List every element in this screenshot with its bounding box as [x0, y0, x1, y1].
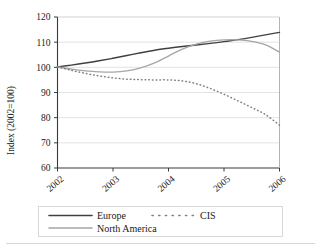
series-line-europe	[58, 32, 280, 66]
chart-legend: EuropeCISNorth America	[39, 207, 283, 237]
x-tick-label: 2002	[45, 174, 66, 194]
legend-label-europe: Europe	[97, 210, 126, 221]
y-tick-label: 110	[37, 38, 51, 48]
chart-figure: 12011010090807060 20022003200420052006 I…	[0, 0, 321, 250]
y-tick-label: 70	[41, 138, 51, 148]
line-chart: 12011010090807060 20022003200420052006 I…	[0, 0, 321, 250]
legend-label-cis: CIS	[200, 210, 216, 221]
y-axis-tick-labels: 12011010090807060	[36, 12, 51, 173]
legend-label-north-america: North America	[97, 223, 157, 234]
y-tick-label: 100	[36, 63, 51, 73]
legend-box	[39, 207, 283, 237]
y-axis-title: Index (2002=100)	[6, 86, 17, 155]
y-tick-label: 90	[41, 88, 51, 98]
x-tick-label: 2005	[211, 174, 232, 194]
data-series-group	[58, 32, 280, 125]
series-line-cis	[58, 67, 280, 125]
y-tick-label: 80	[41, 113, 51, 123]
y-tick-label: 120	[36, 12, 51, 22]
y-tick-label: 60	[41, 163, 51, 173]
x-tick-label: 2003	[100, 174, 121, 194]
x-tick-label: 2006	[267, 174, 288, 194]
x-tick-label: 2004	[156, 174, 177, 194]
x-axis-tick-labels: 20022003200420052006	[45, 174, 288, 194]
